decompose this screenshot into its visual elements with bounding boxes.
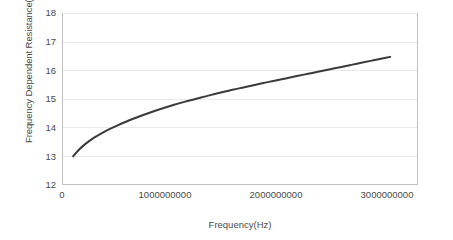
x-tick-label-3e9: 3000000000 xyxy=(342,190,432,200)
data-series-line xyxy=(73,57,390,156)
y-tick-label-17: 17 xyxy=(30,37,56,47)
x-tick-label-1e9: 1000000000 xyxy=(120,190,210,200)
y-tick-label-15: 15 xyxy=(30,94,56,104)
plot-svg xyxy=(62,13,418,185)
y-tick-label-18: 18 xyxy=(30,8,56,18)
chart-container: Frequency Dependent Resistance(Ohm) 18 1… xyxy=(0,0,453,240)
gridlines-horizontal xyxy=(62,14,418,157)
y-tick-label-13: 13 xyxy=(30,152,56,162)
plot-area xyxy=(62,13,418,185)
y-tick-label-14: 14 xyxy=(30,123,56,133)
x-tick-label-2e9: 2000000000 xyxy=(231,190,321,200)
y-tick-label-12: 12 xyxy=(30,180,56,190)
y-tick-label-16: 16 xyxy=(30,66,56,76)
x-tick-label-0: 0 xyxy=(42,190,82,200)
x-axis-title: Frequency(Hz) xyxy=(62,219,418,230)
